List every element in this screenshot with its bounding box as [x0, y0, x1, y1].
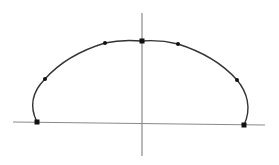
dot-marker [43, 77, 47, 81]
dot-marker [176, 42, 180, 46]
dot-marker [235, 78, 239, 82]
curve-points [35, 39, 247, 128]
horizontal-axis [13, 122, 265, 125]
square-marker [242, 123, 247, 128]
dot-marker [103, 41, 107, 45]
square-marker [35, 120, 40, 125]
diagram-canvas [0, 0, 279, 165]
closed-curve [33, 40, 248, 125]
square-marker [140, 39, 145, 44]
